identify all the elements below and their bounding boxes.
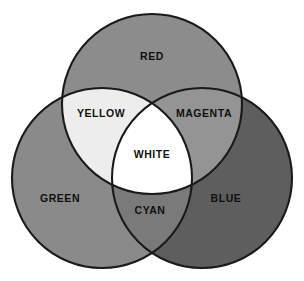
- label-red: RED: [140, 50, 164, 62]
- label-green: GREEN: [40, 192, 80, 204]
- venn-diagram-svg: Additive Color Mixing Venn Diagram: [0, 0, 304, 281]
- label-magenta: MAGENTA: [176, 107, 232, 119]
- venn-diagram-container: Additive Color Mixing Venn Diagram: [0, 0, 304, 281]
- label-white: WHITE: [134, 148, 171, 160]
- label-yellow: YELLOW: [77, 107, 125, 119]
- label-blue: BLUE: [211, 192, 242, 204]
- label-cyan: CYAN: [135, 204, 166, 216]
